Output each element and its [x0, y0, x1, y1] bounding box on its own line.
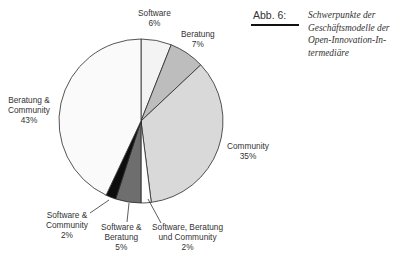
- leader-line-software-community: [90, 200, 109, 213]
- label-text: Community: [46, 220, 88, 230]
- label-text: Software &: [46, 210, 88, 220]
- leader-line-software-beratung-community: [148, 199, 161, 223]
- label-value: 2%: [152, 242, 223, 252]
- caption-line: Geschäftsmodelle der: [308, 22, 402, 35]
- label-beratung-community: Beratung & Community 43%: [8, 95, 50, 125]
- pie-slices: [59, 39, 223, 203]
- label-beratung: Beratung 7%: [181, 29, 215, 49]
- caption-line: Open-Innovation-In-: [308, 34, 402, 47]
- caption-line: termediäre: [308, 47, 402, 60]
- label-text: Software: [138, 8, 171, 18]
- label-value: 43%: [8, 115, 50, 125]
- label-software: Software 6%: [138, 8, 171, 28]
- label-value: 7%: [181, 39, 215, 49]
- label-software-beratung: Software & Beratung 5%: [101, 222, 142, 252]
- label-text: Beratung: [101, 232, 142, 242]
- label-text: Community: [227, 141, 269, 151]
- label-software-beratung-community: Software, Beratung und Community 2%: [152, 222, 223, 252]
- label-community: Community 35%: [227, 141, 269, 161]
- label-value: 35%: [227, 151, 269, 161]
- label-text: Community: [8, 105, 50, 115]
- figure-caption: Schwerpunkte der Geschäftsmodelle der Op…: [308, 9, 402, 59]
- label-value: 5%: [101, 242, 142, 252]
- label-text: Software, Beratung: [152, 222, 223, 232]
- figure-number: Abb. 6:: [253, 9, 286, 21]
- label-text: Beratung &: [8, 95, 50, 105]
- label-text: Software &: [101, 222, 142, 232]
- leader-line-software-beratung: [127, 203, 129, 222]
- label-software-community: Software & Community 2%: [46, 210, 88, 240]
- figure-number-underline: [251, 24, 299, 26]
- caption-line: Schwerpunkte der: [308, 9, 402, 22]
- label-value: 6%: [138, 18, 171, 28]
- label-value: 2%: [46, 230, 88, 240]
- leader-lines: [90, 199, 161, 223]
- label-text: und Community: [152, 232, 223, 242]
- label-text: Beratung: [181, 29, 215, 39]
